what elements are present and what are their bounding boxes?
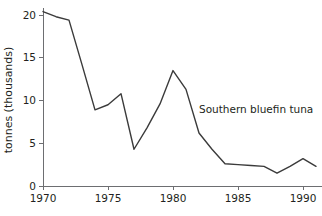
data-line-southern-bluefin-tuna <box>43 12 316 174</box>
series-annotation-label: Southern bluefin tuna <box>199 103 313 115</box>
y-tick-label: 15 <box>23 51 36 63</box>
y-tick-label: 10 <box>23 94 36 106</box>
x-axis-group: 19701975198019851990 <box>30 186 322 204</box>
x-tick-label: 1985 <box>225 192 252 204</box>
x-tick-label: 1980 <box>160 192 187 204</box>
y-tick-label: 20 <box>23 9 36 21</box>
y-tick-label: 0 <box>29 180 36 192</box>
y-axis-title: tonnes (thousands) <box>2 47 15 154</box>
x-tick-label: 1975 <box>95 192 122 204</box>
y-axis-group: 05101520 tonnes (thousands) <box>2 8 43 192</box>
y-tick-label: 5 <box>29 137 36 149</box>
chart-annotations: Southern bluefin tuna <box>199 103 313 115</box>
line-chart: 05101520 tonnes (thousands) 197019751980… <box>0 0 322 216</box>
x-axis-ticks: 19701975198019851990 <box>30 186 317 204</box>
plot-area <box>43 12 316 174</box>
chart-container: 05101520 tonnes (thousands) 197019751980… <box>0 0 322 216</box>
y-axis-ticks: 05101520 <box>23 9 43 192</box>
x-tick-label: 1970 <box>30 192 57 204</box>
x-tick-label: 1990 <box>290 192 317 204</box>
